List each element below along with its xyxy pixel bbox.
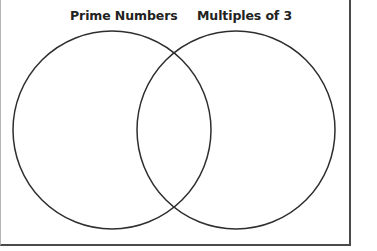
set-circle-multiples-of-3 — [137, 31, 335, 229]
set-label-multiples-of-3: Multiples of 3 — [197, 8, 292, 23]
set-circle-prime-numbers — [13, 31, 211, 229]
set-label-prime-numbers: Prime Numbers — [70, 8, 178, 23]
venn-diagram — [0, 0, 377, 251]
